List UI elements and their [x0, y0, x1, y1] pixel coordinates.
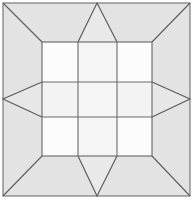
cell-bottom-center	[78, 117, 117, 156]
geometric-net-diagram	[0, 0, 194, 200]
cell-bottom-right	[117, 117, 152, 156]
cell-top-center	[78, 42, 117, 82]
cell-bottom-left	[42, 117, 78, 156]
cell-middle-left	[42, 82, 78, 117]
figure-canvas: Geometric net diagram	[0, 0, 194, 200]
cell-top-right	[117, 42, 152, 82]
cell-middle-center	[78, 82, 117, 117]
cell-middle-right	[117, 82, 152, 117]
cell-top-left	[42, 42, 78, 82]
